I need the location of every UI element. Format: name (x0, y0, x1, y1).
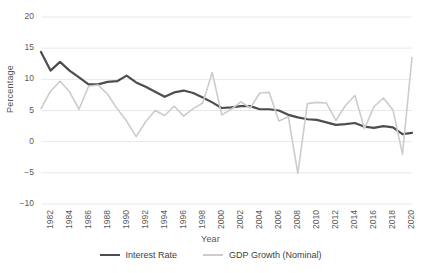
x-tick-label: 2000 (216, 210, 226, 229)
legend-item-2[interactable]: GDP Growth (Nominal) (203, 250, 321, 260)
x-tick-label: 2008 (292, 210, 302, 229)
x-tick-label: 1994 (159, 210, 169, 229)
legend-line-swatch (100, 254, 120, 256)
legend-item-1[interactable]: Interest Rate (100, 250, 178, 260)
x-tick-label: 1998 (197, 210, 207, 229)
x-axis-title: Year (0, 234, 421, 244)
x-tick-label: 1992 (140, 210, 150, 229)
y-tick-label: −5 (0, 167, 34, 177)
plot-area (0, 0, 421, 273)
x-tick-label: 1986 (83, 210, 93, 229)
line-chart: 20151050−5−10 19821984198619881990199219… (0, 0, 421, 273)
x-tick-label: 2016 (368, 210, 378, 229)
x-tick-label: 2002 (235, 210, 245, 229)
x-tick-label: 2014 (349, 210, 359, 229)
x-tick-label: 2020 (406, 210, 416, 229)
chart-legend: Interest RateGDP Growth (Nominal) (0, 250, 421, 260)
x-tick-label: 2006 (273, 210, 283, 229)
gridlines (41, 17, 412, 204)
y-tick-label: 15 (0, 42, 34, 52)
x-tick-label: 1996 (178, 210, 188, 229)
y-tick-label: 20 (0, 11, 34, 21)
legend-line-swatch (203, 254, 223, 256)
x-tick-label: 2012 (330, 210, 340, 229)
y-axis-title: Percentage (5, 57, 15, 121)
legend-label: GDP Growth (Nominal) (229, 250, 321, 260)
legend-label: Interest Rate (126, 250, 178, 260)
x-tick-label: 1988 (102, 210, 112, 229)
y-tick-label: −10 (0, 198, 34, 208)
x-tick-label: 1982 (45, 210, 55, 229)
x-tick-label: 1990 (121, 210, 131, 229)
x-tick-label: 2004 (254, 210, 264, 229)
series-line-2 (41, 58, 412, 174)
y-tick-label: 0 (0, 136, 34, 146)
series-line-1 (41, 52, 412, 134)
x-tick-label: 2018 (387, 210, 397, 229)
series-layer (41, 52, 412, 174)
x-tick-label: 2010 (311, 210, 321, 229)
x-tick-label: 1984 (64, 210, 74, 229)
